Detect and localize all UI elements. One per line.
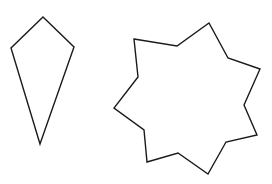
star-shape	[114, 23, 260, 174]
kite-shape	[11, 17, 74, 144]
drawing-canvas	[0, 0, 272, 184]
